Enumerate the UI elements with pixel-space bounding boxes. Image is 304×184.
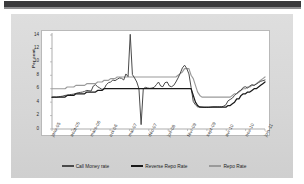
chart-legend: Call Money rateReverse Repo RateRepo Rat… [25,160,283,172]
y-tick-label: 6 [36,85,39,90]
legend-label: Call Money rate [76,164,110,169]
y-tick-label: 8 [36,72,39,77]
chart-card [41,30,270,136]
legend-swatch-icon [209,165,221,167]
figure-panel: Per cent 02468101214 janv-05août-05mars-… [11,14,293,178]
y-tick-label: 12 [34,45,39,50]
legend-label: Repo Rate [223,164,246,169]
y-tick-label: 0 [36,126,39,131]
y-tick-label: 14 [34,32,39,37]
screenshot-page: Per cent 02468101214 janv-05août-05mars-… [0,0,304,184]
legend-label: Reverse Repo Rate [145,164,187,169]
legend-item[interactable]: Call Money rate [62,164,110,169]
plot-area [42,31,269,135]
legend-item[interactable]: Repo Rate [209,164,246,169]
legend-swatch-icon [131,165,143,167]
y-tick-label: 4 [36,99,39,104]
y-axis-ticks: 02468101214 [19,28,39,136]
legend-swatch-icon [62,165,74,167]
legend-item[interactable]: Reverse Repo Rate [131,164,187,169]
chart-svg [42,31,269,135]
y-tick-label: 2 [36,112,39,117]
series-line-call-money-rate [52,34,265,124]
y-tick-label: 10 [34,58,39,63]
top-scan-bar-shadow [4,7,301,9]
